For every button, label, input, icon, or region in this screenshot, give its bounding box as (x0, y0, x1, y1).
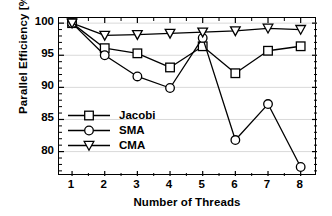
legend-marker-glyph (85, 126, 94, 135)
legend-marker-circle (66, 123, 112, 138)
y-tick-label: 80 (20, 145, 54, 157)
legend-marker-square (66, 108, 112, 123)
data-point-marker (133, 72, 142, 81)
data-point-marker (231, 136, 240, 145)
legend-marker-triangle-down (66, 138, 112, 153)
data-point-marker (166, 84, 175, 93)
y-tick-label: 95 (20, 48, 54, 60)
x-tick-label: 6 (222, 179, 246, 191)
x-tick-label: 5 (190, 179, 214, 191)
data-point-marker (231, 69, 240, 78)
x-axis-label: Number of Threads (58, 196, 316, 208)
legend-label: CMA (119, 140, 145, 152)
y-tick-label: 90 (20, 80, 54, 92)
legend-label: SMA (119, 125, 145, 137)
x-tick-label: 8 (288, 179, 312, 191)
x-tick-label: 3 (124, 179, 148, 191)
data-point-marker (296, 42, 305, 51)
y-axis-tick-labels: 80859095100 (16, 0, 54, 216)
data-point-marker (166, 63, 175, 72)
chart-legend: JacobiSMACMA (66, 108, 155, 153)
legend-label: Jacobi (119, 110, 155, 122)
y-tick-label: 85 (20, 112, 54, 124)
x-tick-label: 7 (255, 179, 279, 191)
data-point-marker (100, 51, 109, 60)
data-point-marker (133, 49, 142, 58)
series-cma (67, 19, 305, 40)
data-point-marker (264, 46, 273, 55)
legend-item-cma: CMA (66, 138, 155, 153)
y-tick-label: 100 (20, 16, 54, 28)
parallel-efficiency-chart: Parallel Efficiency [%] 80859095100 Numb… (0, 0, 332, 216)
x-tick-label: 1 (59, 179, 83, 191)
x-tick-label: 2 (92, 179, 116, 191)
data-point-marker (296, 163, 305, 172)
legend-item-jacobi: Jacobi (66, 108, 155, 123)
x-tick-label: 4 (157, 179, 181, 191)
legend-item-sma: SMA (66, 123, 155, 138)
legend-marker-glyph (85, 111, 94, 120)
data-point-marker (264, 100, 273, 109)
